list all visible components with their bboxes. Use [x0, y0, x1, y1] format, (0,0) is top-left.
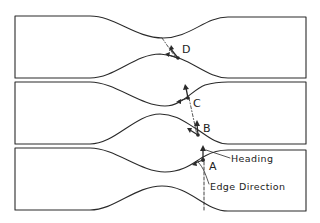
edge-direction-leader — [198, 162, 209, 184]
point-label-a: A — [209, 160, 217, 173]
panel-middle — [15, 82, 306, 144]
corridor-outline-middle — [15, 82, 306, 144]
vector-b — [187, 120, 200, 137]
heading-caption: Heading — [231, 153, 273, 164]
vector-c — [176, 84, 190, 104]
corridor-outline-top — [15, 16, 306, 78]
corridor-diagram: D C B A Heading Edge Direction — [0, 0, 320, 223]
point-label-c: C — [193, 97, 201, 110]
panel-top — [15, 16, 306, 78]
point-label-d: D — [182, 43, 190, 56]
point-label-b: B — [203, 122, 211, 135]
edge-direction-caption: Edge Direction — [210, 181, 285, 192]
